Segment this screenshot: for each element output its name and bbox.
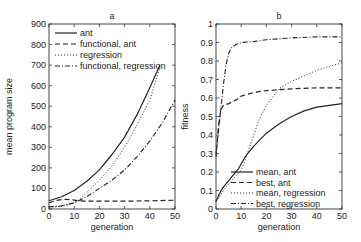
y-tick-label: 200 [31,163,46,173]
y-tick-label: 0 [208,204,213,214]
y-axis-label: mean program size [4,78,14,155]
legend: antfunctional, antregressionfunctional, … [55,28,166,71]
y-tick-label: 400 [31,122,46,132]
chart-title: b [276,11,281,21]
series-line-ant [49,65,160,201]
y-tick-label: 0.1 [200,186,213,196]
legend-label: mean, regression [256,188,326,198]
x-tick-label: 50 [170,211,180,221]
legend: mean, antbest, antmean, regressionbest, … [231,167,326,209]
y-tick-label: 600 [31,81,46,91]
y-tick-label: 800 [31,40,46,50]
x-axis-label: generation [91,222,134,232]
y-tick-label: 0.5 [200,112,213,122]
y-tick-label: 100 [31,183,46,193]
y-tick-label: 0.9 [200,38,213,48]
x-axis-label: generation [258,222,301,232]
legend-label: regression [80,50,122,60]
legend-label: functional, ant [80,39,137,49]
x-tick-label: 40 [312,211,322,221]
series-group [49,65,175,207]
y-tick-label: 0.8 [200,56,213,66]
x-tick-label: 30 [120,211,130,221]
legend-label: best, ant [256,178,291,188]
series-line-functional-ant [49,199,175,203]
y-axis-label: fitness [180,103,190,130]
y-tick-label: 0 [41,204,46,214]
x-tick-label: 10 [69,211,79,221]
y-tick-label: 0.2 [200,167,213,177]
y-tick-label: 1 [208,19,213,29]
y-tick-label: 700 [31,60,46,70]
series-line-regression [49,67,160,207]
y-tick-label: 0.3 [200,149,213,159]
x-tick-label: 40 [145,211,155,221]
series-line-best-ant [216,88,342,157]
y-tick-label: 0.4 [200,130,213,140]
chart-title: a [109,11,114,21]
chart-panel-b: 0102030405000.10.20.30.40.50.60.70.80.91… [180,11,347,232]
y-tick-label: 900 [31,19,46,29]
y-tick-label: 300 [31,142,46,152]
legend-label: mean, ant [256,167,297,177]
x-tick-label: 30 [287,211,297,221]
x-tick-label: 0 [213,211,218,221]
x-tick-label: 20 [94,211,104,221]
legend-label: best, regression [256,199,320,209]
legend-label: functional, regression [80,61,166,71]
x-tick-label: 10 [236,211,246,221]
figure: 010203040500100200300400500600700800900a… [0,0,361,242]
x-tick-label: 0 [46,211,51,221]
series-line-best-regression [216,37,342,154]
y-tick-label: 500 [31,101,46,111]
y-tick-label: 0.7 [200,75,213,85]
x-tick-label: 50 [337,211,347,221]
chart-panel-a: 010203040500100200300400500600700800900a… [4,11,180,232]
x-tick-label: 20 [261,211,271,221]
legend-label: ant [80,28,93,38]
y-tick-label: 0.6 [200,93,213,103]
